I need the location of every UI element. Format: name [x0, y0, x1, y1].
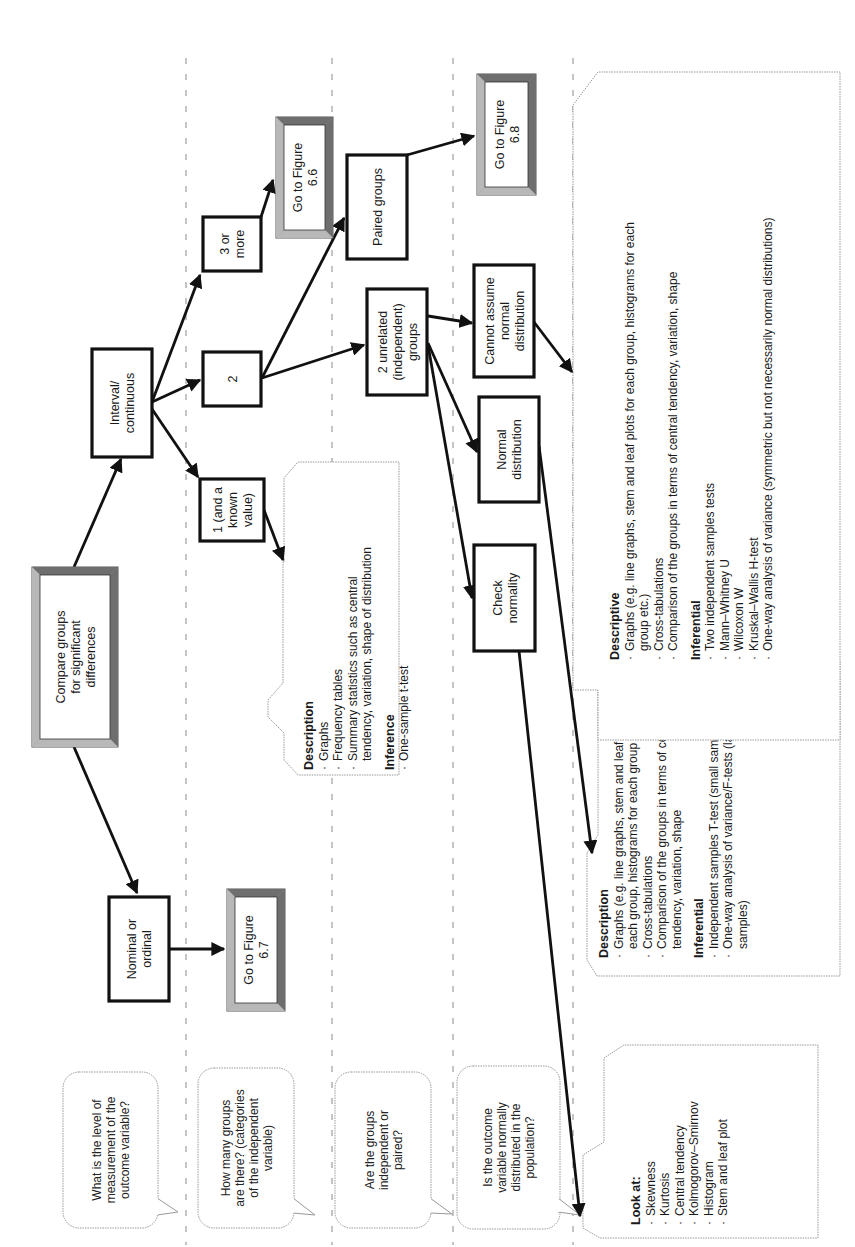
- panel-heading: Inferential: [689, 600, 703, 660]
- node-fig68[interactable]: Go to Figure6.8: [477, 74, 536, 195]
- bullet-icon: ·: [702, 1221, 716, 1225]
- node-label-line: more: [233, 230, 247, 259]
- node-notnormal[interactable]: Cannot assumenormaldistribution: [474, 265, 534, 377]
- question-q-paired: Are the groupsindependent orpaired?: [335, 1072, 452, 1228]
- panel-item: Mann–Whitney U: [718, 559, 732, 651]
- node-fig66[interactable]: Go to Figure6.6: [276, 117, 333, 238]
- node-label-line: distribution: [510, 419, 524, 479]
- panel-heading: Inferential: [692, 898, 706, 958]
- bullet-icon: ·: [721, 954, 735, 958]
- node-label-line: Paired groups: [371, 168, 385, 246]
- node-label-line: normal: [498, 302, 512, 340]
- node-paired[interactable]: Paired groups: [347, 155, 407, 259]
- node-interval[interactable]: Interval/continuous: [92, 349, 152, 457]
- question-q-level: What is the level ofmeasurement of theou…: [63, 1072, 178, 1228]
- paired-to-fig68-arrow: [407, 136, 474, 155]
- node-two[interactable]: 2: [203, 352, 261, 406]
- node-unrelated[interactable]: 2 unrelated(independent)groups: [367, 289, 427, 395]
- node-label-line: (independent): [391, 303, 405, 380]
- question-text-line: population?: [523, 1116, 537, 1178]
- node-label: 2: [226, 375, 240, 382]
- bullet-icon: ·: [641, 954, 655, 958]
- panel-item: Frequency tables: [331, 669, 345, 761]
- node-start[interactable]: Compare groupsfor significantdifferences: [32, 567, 118, 747]
- question-text-line: paired?: [391, 1130, 405, 1170]
- panel-heading: Description: [302, 701, 316, 770]
- question-bubbles: What is the level ofmeasurement of theou…: [63, 1066, 580, 1229]
- panel-item: Kurtosis: [658, 1173, 672, 1216]
- question-q-normal: Is the outcomevariable normallydistribut…: [457, 1066, 580, 1229]
- node-nominal[interactable]: Nominal orordinal: [109, 897, 169, 1001]
- question-text-line: Is the outcome: [481, 1108, 495, 1187]
- panel-heading: Description: [597, 889, 611, 958]
- panel-item: One-sample t-test: [397, 665, 411, 761]
- node-label-line: value): [241, 493, 255, 527]
- bullet-icon: ·: [716, 1221, 730, 1225]
- node-fig67[interactable]: Go to Figure6.7: [227, 889, 285, 1011]
- panel-item: group etc.): [637, 594, 651, 651]
- node-label-line: 6.6: [306, 169, 320, 186]
- panel-item: Histogram: [702, 1161, 716, 1216]
- node-label-line: known: [226, 492, 240, 528]
- node-label-line: 2 unrelated: [376, 311, 390, 374]
- panel-item: Cross-tabulations: [641, 856, 655, 949]
- panel-one-sample: Description·Graphs·Frequency tables·Summ…: [268, 462, 411, 775]
- question-text-line: variable): [261, 1125, 275, 1171]
- one-to-panel1-arrow: [264, 510, 283, 560]
- bullet-icon: ·: [346, 766, 360, 770]
- node-one[interactable]: 1 (and aknownvalue): [200, 479, 264, 541]
- panel-item: tendency, variation, shape of distributi…: [360, 547, 374, 761]
- panel-item: One-way analysis of variance (symmetric …: [761, 218, 775, 652]
- bullet-icon: ·: [623, 656, 637, 660]
- node-label-line: Nominal or: [125, 919, 139, 979]
- panel-item: Wilcoxon W: [732, 587, 746, 651]
- panel-item: Cross-tabulations: [652, 558, 666, 651]
- three-to-fig66-arrow: [261, 180, 273, 217]
- panel-item: Summary statistics such as central: [346, 576, 360, 761]
- node-three[interactable]: 3 ormore: [203, 217, 261, 271]
- node-label-line: Cannot assume: [483, 277, 497, 365]
- panel-item: Central tendency: [673, 1125, 687, 1216]
- node-label: 1 (and aknownvalue): [211, 487, 255, 533]
- panel-item: Stem and leaf plot: [716, 1119, 730, 1216]
- node-label-line: differences: [84, 627, 98, 688]
- unrelated-to-check-arrow: [428, 345, 472, 598]
- question-text-line: of the independent: [247, 1098, 261, 1198]
- node-label-line: Go to Figure: [242, 915, 256, 985]
- panel-item: Independent samples T-test (small sample…: [707, 714, 721, 949]
- node-label-line: Go to Figure: [291, 143, 305, 213]
- node-label-line: 6.8: [508, 126, 522, 143]
- node-label: Paired groups: [371, 168, 385, 246]
- bullet-icon: ·: [718, 656, 732, 660]
- question-text-line: outcome variable?: [118, 1101, 132, 1199]
- bullet-icon: ·: [397, 766, 411, 770]
- node-label-line: for significant: [69, 620, 83, 694]
- bullet-icon: ·: [652, 656, 666, 660]
- bullet-icon: ·: [761, 656, 775, 660]
- unrelated-to-notnormal-arrow: [428, 316, 472, 323]
- question-text-line: Are the groups: [363, 1111, 377, 1190]
- bullet-icon: ·: [655, 954, 669, 958]
- node-label-line: Go to Figure: [493, 100, 507, 170]
- panel-item: Comparison of the groups in terms of cen…: [655, 712, 669, 949]
- notnormal-to-panel3-arrow: [534, 322, 572, 372]
- node-label-line: groups: [406, 323, 420, 361]
- start-to-nominal-arrow: [74, 747, 137, 893]
- panel-item: Graphs: [317, 722, 331, 761]
- node-label-line: 2: [226, 375, 240, 382]
- bullet-icon: ·: [644, 1221, 658, 1225]
- start-to-interval-arrow: [74, 459, 121, 567]
- node-label-line: Interval/: [108, 380, 122, 425]
- bullet-icon: ·: [331, 766, 345, 770]
- panel-item: samples): [736, 900, 750, 949]
- panel-item: tendency, variation, shape: [670, 809, 684, 949]
- interval-to-one-arrow: [152, 409, 198, 477]
- bullet-icon: ·: [747, 656, 761, 660]
- node-check[interactable]: Checknormality: [474, 545, 535, 651]
- node-normal[interactable]: Normaldistribution: [479, 397, 539, 502]
- panel-item: One-way analysis of variance/F-tests (la…: [721, 714, 735, 949]
- node-label-line: distribution: [513, 291, 527, 351]
- panel-item: each group, histograms for each group et…: [626, 716, 640, 949]
- node-label: 3 ormore: [218, 230, 247, 259]
- panel-item: Kolmogorov–Smirnov: [687, 1101, 701, 1216]
